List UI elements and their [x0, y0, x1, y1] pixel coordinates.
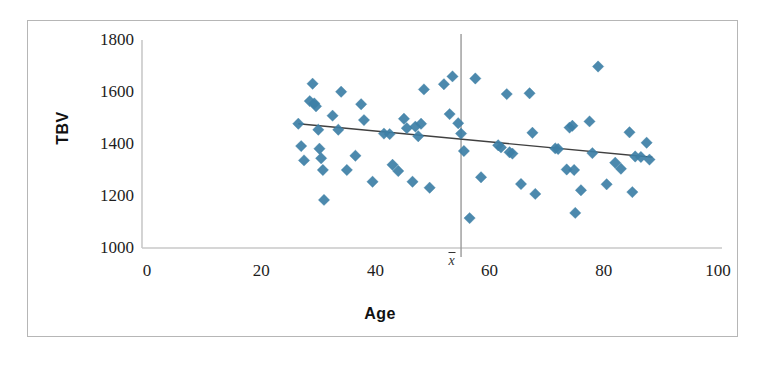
scatter-point [327, 110, 338, 121]
scatter-point [527, 127, 538, 138]
scatter-point [298, 155, 309, 166]
scatter-point [318, 194, 329, 205]
scatter-point [401, 122, 412, 133]
scatter-point [358, 114, 369, 125]
x-axis-title: Age [364, 305, 396, 323]
y-axis-tick-labels: 10001200140016001800 [62, 0, 134, 371]
scatter-point [424, 182, 435, 193]
scatter-point [524, 88, 535, 99]
x-tick-label: 20 [253, 262, 270, 279]
scatter-point [575, 185, 586, 196]
scatter-point [475, 172, 486, 183]
scatter-plot-figure: 10001200140016001800 020406080100 TBV Ag… [0, 0, 764, 371]
scatter-point [452, 118, 463, 129]
scatter-point [515, 178, 526, 189]
scatter-point [624, 127, 635, 138]
x-bar-mean-annotation-label: x [449, 252, 456, 268]
scatter-point [641, 137, 652, 148]
y-tick-label: 1400 [68, 135, 134, 152]
scatter-point [307, 78, 318, 89]
y-tick-label: 1000 [68, 239, 134, 256]
scatter-point [295, 140, 306, 151]
scatter-point [627, 186, 638, 197]
scatter-point [315, 153, 326, 164]
scatter-point [413, 131, 424, 142]
scatter-point [355, 99, 366, 110]
y-axis-title: TBV [54, 98, 72, 158]
y-tick-label: 1200 [68, 187, 134, 204]
scatter-point [367, 176, 378, 187]
figure-caption-partial [40, 358, 370, 369]
scatter-point [584, 116, 595, 127]
scatter-point [501, 88, 512, 99]
scatter-point [335, 86, 346, 97]
scatter-point [293, 118, 304, 129]
x-tick-label: 100 [705, 262, 731, 279]
regression-trend-line [298, 124, 652, 158]
y-tick-label: 1800 [68, 31, 134, 48]
scatter-point [407, 176, 418, 187]
scatter-point [470, 73, 481, 84]
scatter-point [398, 113, 409, 124]
scatter-point [464, 212, 475, 223]
scatter-point [570, 207, 581, 218]
scatter-point [587, 147, 598, 158]
scatter-point [447, 71, 458, 82]
scatter-series [293, 61, 656, 224]
scatter-point [601, 179, 612, 190]
scatter-point [418, 84, 429, 95]
scatter-point [438, 79, 449, 90]
x-tick-label: 60 [481, 262, 498, 279]
scatter-point [350, 150, 361, 161]
y-tick-label: 1600 [68, 83, 134, 100]
scatter-point [530, 188, 541, 199]
x-axis-tick-labels: 020406080100 [0, 262, 764, 290]
x-tick-label: 40 [367, 262, 384, 279]
scatter-point [314, 143, 325, 154]
scatter-point [444, 108, 455, 119]
scatter-point [592, 61, 603, 72]
scatter-point [568, 164, 579, 175]
scatter-point [341, 164, 352, 175]
scatter-point [455, 128, 466, 139]
x-tick-label: 0 [143, 262, 152, 279]
x-bar-variable: x [449, 253, 455, 268]
x-tick-label: 80 [595, 262, 612, 279]
scatter-point [333, 124, 344, 135]
scatter-point [458, 145, 469, 156]
scatter-point [317, 164, 328, 175]
